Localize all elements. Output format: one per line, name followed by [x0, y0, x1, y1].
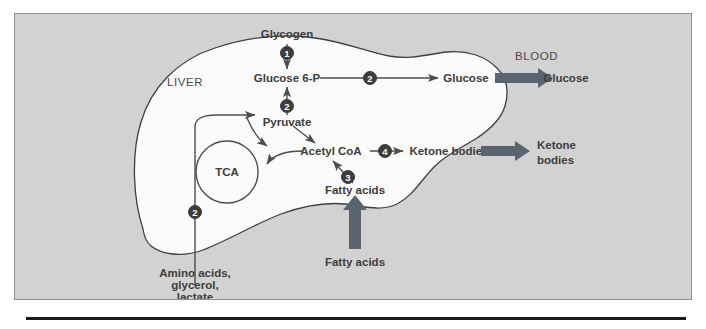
pathway-marker-4: 4: [379, 145, 392, 158]
pathway-marker-1: 1: [281, 47, 294, 60]
pyruvate-label: Pyruvate: [263, 116, 312, 128]
pathway-marker-2-gluconeogenesis: 2: [281, 100, 294, 113]
svg-text:2: 2: [192, 207, 197, 218]
ketone-bodies-blood-label-line1: Ketone: [537, 139, 576, 151]
glucose-6-p-label: Glucose 6-P: [254, 72, 321, 84]
substrates-label-line1: Amino acids,: [159, 267, 231, 279]
glucose-blood-label: Glucose: [543, 72, 588, 84]
svg-text:2: 2: [284, 101, 289, 112]
acetyl-coa-label: Acetyl CoA: [300, 145, 361, 157]
blood-label: BLOOD: [515, 50, 558, 62]
metabolism-diagram-svg: LIVER BLOOD TCA Glycogen: [15, 14, 691, 299]
ketone-bodies-liver-label: Ketone bodies: [409, 145, 488, 157]
glycogen-label: Glycogen: [261, 28, 313, 40]
ketone-bodies-blood-label-line2: bodies: [537, 154, 574, 166]
svg-text:2: 2: [367, 73, 372, 84]
diagram-panel: LIVER BLOOD TCA Glycogen: [14, 13, 692, 300]
liver-label: LIVER: [167, 76, 203, 88]
pathway-marker-2-substrates: 2: [189, 206, 202, 219]
thick-arrow-ketones-to-blood: [481, 141, 530, 161]
bottom-horizontal-rule: [26, 317, 686, 320]
glucose-liver-label: Glucose: [443, 72, 488, 84]
svg-text:1: 1: [284, 48, 290, 59]
substrates-label-line3: lactate: [177, 291, 213, 299]
tca-label: TCA: [215, 166, 239, 178]
fatty-acids-liver-label: Fatty acids: [325, 184, 385, 196]
fatty-acids-blood-label: Fatty acids: [325, 256, 385, 268]
svg-text:4: 4: [382, 146, 388, 157]
pathway-marker-3: 3: [342, 171, 355, 184]
pathway-marker-2-g6p-to-glucose: 2: [364, 72, 377, 85]
substrates-label-line2: glycerol,: [171, 279, 218, 291]
figure-root: LIVER BLOOD TCA Glycogen: [0, 0, 706, 329]
svg-text:3: 3: [345, 172, 350, 183]
